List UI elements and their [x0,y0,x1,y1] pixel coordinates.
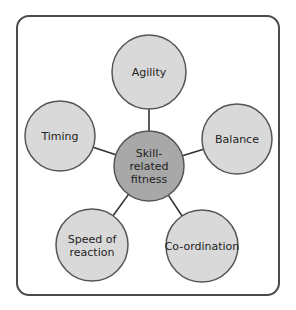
skill-related-fitness-diagram: AgilityBalanceCo-ordinationSpeed ofreact… [0,0,296,310]
center-node-skill-related-fitness-label: fitness [131,173,168,186]
center-node-skill-related-fitness-label: Skill- [136,147,163,160]
center-node-skill-related-fitness-label: related [130,160,169,173]
connector-coordination [168,195,182,216]
node-coordination: Co-ordination [165,210,240,282]
node-speed-of-reaction-label: reaction [70,246,115,259]
node-timing: Timing [25,101,95,171]
nodes: AgilityBalanceCo-ordinationSpeed ofreact… [25,35,272,282]
connector-timing [93,147,116,155]
node-speed-of-reaction: Speed ofreaction [56,209,128,281]
node-coordination-label: Co-ordination [165,240,240,253]
node-speed-of-reaction-label: Speed of [68,233,118,246]
node-agility: Agility [112,35,186,109]
node-timing-label: Timing [40,130,78,143]
node-balance: Balance [202,104,272,174]
connector-balance [182,149,203,155]
node-balance-label: Balance [215,133,259,146]
node-agility-label: Agility [132,66,167,79]
center-node-skill-related-fitness: Skill-relatedfitness [114,131,184,201]
connector-speed-of-reaction [113,194,128,215]
